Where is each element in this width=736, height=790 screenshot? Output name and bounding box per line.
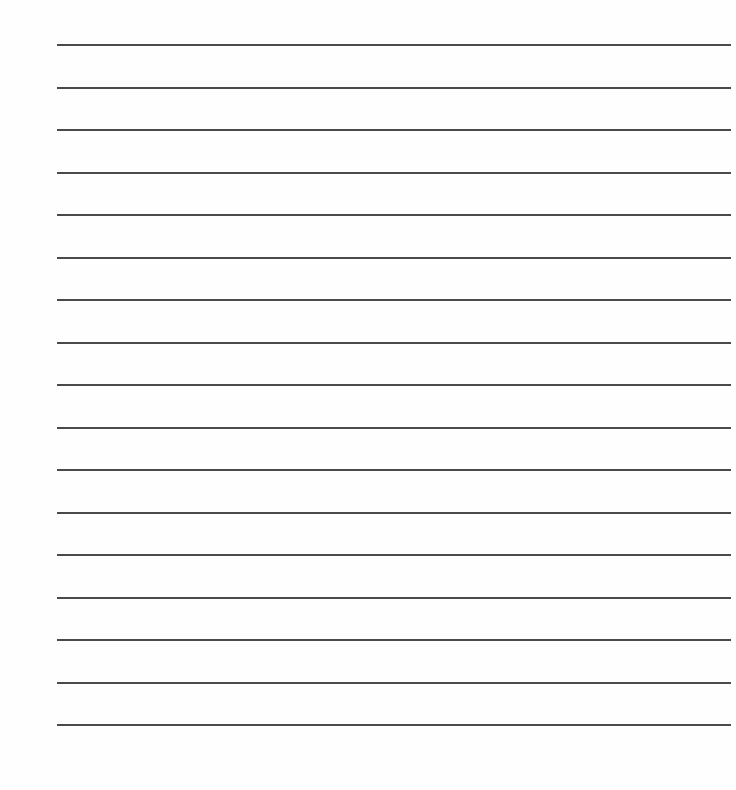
ruled-line xyxy=(57,724,731,726)
ruled-line xyxy=(57,214,731,216)
ruled-line xyxy=(57,44,731,46)
ruled-line xyxy=(57,87,731,89)
ruled-line xyxy=(57,469,731,471)
ruled-line xyxy=(57,427,731,429)
ruled-line xyxy=(57,172,731,174)
ruled-line xyxy=(57,639,731,641)
ruled-line xyxy=(57,512,731,514)
ruled-line xyxy=(57,129,731,131)
ruled-line xyxy=(57,682,731,684)
ruled-line xyxy=(57,257,731,259)
ruled-line xyxy=(57,342,731,344)
ruled-line xyxy=(57,384,731,386)
ruled-line xyxy=(57,554,731,556)
ruled-line xyxy=(57,299,731,301)
lined-paper-sheet xyxy=(0,0,736,790)
ruled-line xyxy=(57,597,731,599)
